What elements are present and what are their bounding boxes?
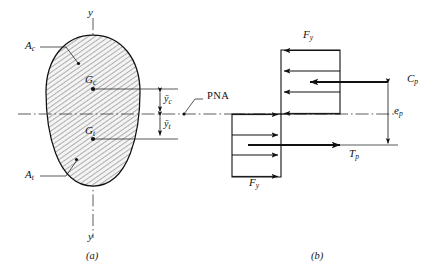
stress-bottom-label: Fy	[249, 177, 259, 190]
compression-resultant-label: Cp	[407, 73, 418, 86]
centroid-tension-label: Gt	[85, 125, 95, 138]
axis-label-y-bottom: y	[88, 231, 93, 242]
panel-a-group	[18, 18, 232, 238]
cross-section-outline	[46, 35, 140, 186]
leader-pna	[182, 99, 203, 116]
centroid-compression-label: Gc	[85, 74, 96, 87]
area-compression-label: Ac	[25, 40, 35, 53]
tension-resultant-label: Tp	[349, 148, 359, 161]
eccentricity-label: ep	[394, 105, 403, 118]
axis-label-y-top: y	[88, 7, 93, 18]
panel-b-group	[232, 50, 398, 177]
caption-b: (b)	[311, 250, 323, 261]
pna-label: PNA	[207, 91, 229, 102]
caption-a: (a)	[86, 250, 98, 261]
engineering-figure	[0, 0, 438, 272]
area-tension-label: At	[25, 169, 34, 182]
dimension-ybar-c-label: ȳc	[164, 94, 172, 106]
stress-top-label: Fy	[303, 29, 313, 42]
dimension-ybar-t-label: ȳt	[164, 119, 171, 131]
